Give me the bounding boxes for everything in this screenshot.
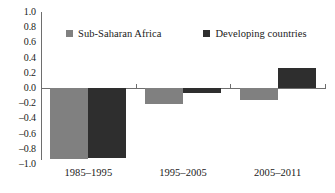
- y-axis-tick-label: –0.4: [19, 113, 36, 123]
- bar-developing-countries-1995-2005: [183, 88, 221, 93]
- x-axis-tick-mark: [325, 84, 326, 89]
- x-axis-category-label: 1985–1995: [64, 167, 112, 179]
- y-axis-tick-label: 0.6: [24, 37, 36, 47]
- x-axis-category-label: 2005–2011: [254, 167, 301, 179]
- bar-sub-saharan-africa-2005-2011: [240, 88, 278, 100]
- y-axis-tick-label: –0.6: [19, 129, 36, 139]
- bar-developing-countries-2005-2011: [278, 68, 316, 88]
- y-axis-tick-label: 0.4: [24, 53, 36, 63]
- y-axis-tick-label: –1.0: [19, 159, 36, 169]
- bar-sub-saharan-africa-1985-1995: [50, 88, 88, 159]
- x-axis-tick-mark: [136, 84, 137, 89]
- y-axis-tick-label: 0.0: [24, 83, 36, 93]
- y-axis-line: [41, 12, 42, 160]
- y-axis-tick-label: 0.2: [24, 68, 36, 78]
- y-axis-tick-label: –0.2: [19, 98, 36, 108]
- y-axis-tick-label: 0.8: [24, 22, 36, 32]
- y-axis-tick-label: –0.8: [19, 144, 36, 154]
- bar-chart: Sub-Saharan Africa Developing countries …: [0, 0, 335, 193]
- y-axis-tick-label: 1.0: [24, 7, 36, 17]
- bar-sub-saharan-africa-1995-2005: [145, 88, 183, 104]
- x-axis-category-label: 1995–2005: [159, 167, 207, 179]
- plot-area: 1.00.80.60.40.20.0–0.2–0.4–0.6–0.8–1.0: [41, 12, 325, 160]
- x-axis-tick-mark: [230, 84, 231, 89]
- bar-developing-countries-1985-1995: [88, 88, 126, 158]
